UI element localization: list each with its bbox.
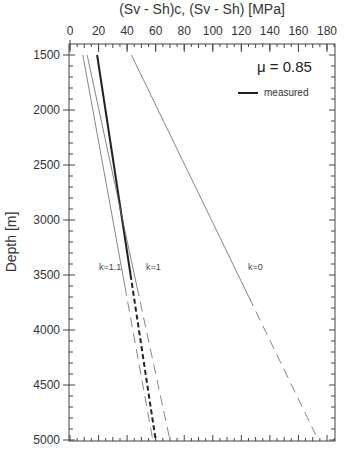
y-tick-label: 5000 (33, 433, 60, 447)
y-tick-label: 3000 (33, 213, 60, 227)
y-tick-label: 3500 (33, 268, 60, 282)
x-tick-label: 160 (288, 24, 308, 38)
x-tick-label: 60 (149, 24, 163, 38)
x-tick-label: 80 (178, 24, 192, 38)
y-tick-label: 1500 (33, 48, 60, 62)
x-tick-label: 140 (260, 24, 280, 38)
legend-measured-label: measured (264, 87, 308, 98)
series-k-1-1-dashed (125, 286, 153, 440)
x-tick-labels: 020406080100120140160180 (67, 24, 338, 38)
label-k-1-1: k=1.1 (99, 262, 121, 272)
y-tick-label: 4500 (33, 378, 60, 392)
series-k-1-1-solid (83, 55, 125, 286)
mu-annotation: μ = 0.85 (257, 58, 312, 75)
x-tick-label: 120 (231, 24, 251, 38)
x-tick-label: 100 (203, 24, 223, 38)
x-axis-title: (Sv - Sh)c, (Sv - Sh) [MPa] (119, 1, 285, 17)
y-axis-title: Depth [m] (3, 212, 19, 273)
y-tick-label: 4000 (33, 323, 60, 337)
label-k-1: k=1 (146, 262, 161, 272)
x-tick-label: 40 (120, 24, 134, 38)
series-k-1-solid (87, 55, 137, 286)
series-k-1-dashed (137, 286, 170, 440)
x-tick-label: 0 (67, 24, 74, 38)
y-tick-labels: 15002000250030003500400045005000 (33, 48, 60, 447)
x-tick-label: 20 (92, 24, 106, 38)
label-k-0: k=0 (248, 262, 263, 272)
series-measured-solid (97, 55, 130, 275)
depth-stress-chart: (Sv - Sh)c, (Sv - Sh) [MPa] 020406080100… (0, 0, 352, 454)
series-k-0-solid (131, 55, 248, 297)
data-series (83, 55, 316, 440)
y-tick-label: 2500 (33, 158, 60, 172)
series-k-0-dashed (249, 297, 316, 435)
legend: measured (238, 87, 308, 98)
y-tick-label: 2000 (33, 103, 60, 117)
plot-frame (69, 44, 335, 441)
x-tick-label: 180 (317, 24, 337, 38)
